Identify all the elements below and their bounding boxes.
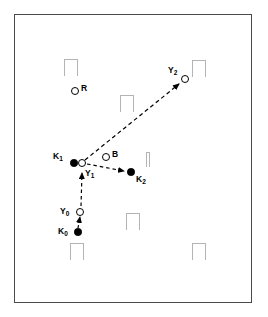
node-label-r: R — [81, 84, 87, 93]
node-label-y0: Y0 — [60, 207, 69, 216]
node-marker-y1 — [78, 159, 86, 167]
node-label-k0: K0 — [58, 227, 68, 236]
node-marker-k0 — [74, 228, 82, 236]
node-marker-y2 — [181, 75, 189, 83]
obstacle-lower-middle — [126, 213, 140, 230]
node-marker-b — [102, 153, 110, 161]
node-marker-k1 — [70, 159, 78, 167]
node-label-k1: K1 — [53, 152, 63, 161]
obstacle-upper-middle — [120, 95, 134, 112]
node-marker-y0 — [76, 208, 84, 216]
obstacle-top-left — [64, 59, 78, 76]
node-label-k2: K2 — [136, 175, 146, 184]
figure-container: K0Y0K1Y1K2Y2RB — [0, 0, 268, 317]
node-label-b: B — [112, 150, 118, 159]
path-k0-to-y0 — [78, 217, 80, 228]
node-label-y1: Y1 — [85, 169, 94, 178]
obstacle-bottom-right — [192, 243, 206, 260]
node-marker-r — [71, 87, 79, 95]
node-label-y2: Y2 — [168, 66, 177, 75]
obstacle-center-bar — [146, 152, 150, 167]
path-y0-to-y1 — [81, 173, 82, 206]
trajectory-plot — [0, 0, 268, 317]
obstacle-bottom-left — [70, 243, 84, 260]
obstacle-top-right — [192, 60, 206, 77]
node-marker-k2 — [127, 168, 135, 176]
